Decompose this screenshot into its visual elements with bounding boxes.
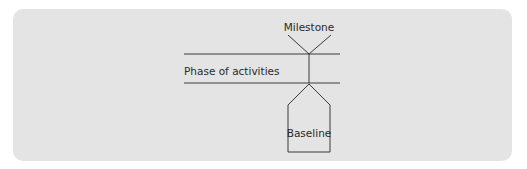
phase-label: Phase of activities [184, 66, 279, 77]
baseline-pentagon-icon [288, 84, 330, 152]
milestone-triangle-icon [288, 35, 331, 54]
milestone-diagram [0, 0, 527, 169]
baseline-label: Baseline [287, 128, 332, 139]
diagram-stage: Milestone Phase of activities Baseline [0, 0, 527, 169]
milestone-label: Milestone [284, 22, 334, 33]
